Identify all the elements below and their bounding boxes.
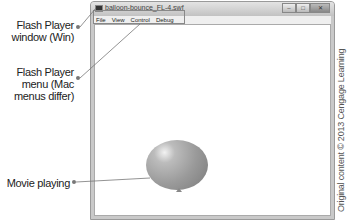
flash-player-window: balloon-bounce_FL-4.swf – □ ✕ File View … — [90, 1, 335, 220]
balloon-knot — [176, 188, 182, 192]
callout-window: Flash Player window (Win) — [6, 19, 74, 43]
minimize-button[interactable]: – — [282, 3, 296, 13]
maximize-button[interactable]: □ — [296, 3, 310, 13]
balloon-graphic — [146, 140, 208, 190]
callout-movie: Movie playing — [6, 177, 70, 189]
menu-highlight-box — [93, 10, 185, 24]
copyright-credit: Original content © 2013 Cengage Learning — [336, 49, 346, 212]
callout-dot — [72, 180, 76, 184]
callout-dot — [76, 25, 80, 29]
callout-window-line2: window (Win) — [6, 31, 74, 43]
movie-stage — [94, 24, 331, 216]
callout-dot — [76, 76, 80, 80]
callout-menu-line3: menus differ) — [6, 90, 74, 102]
close-button[interactable]: ✕ — [310, 3, 330, 13]
callout-movie-line1: Movie playing — [6, 177, 70, 189]
window-controls: – □ ✕ — [282, 3, 330, 13]
callout-menu: Flash Player menu (Mac menus differ) — [6, 66, 74, 102]
callout-menu-line2: menu (Mac — [6, 78, 74, 90]
callout-window-line1: Flash Player — [6, 19, 74, 31]
callout-menu-line1: Flash Player — [6, 66, 74, 78]
